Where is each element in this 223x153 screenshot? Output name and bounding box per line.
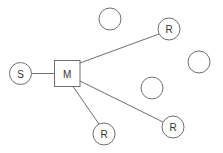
node-label: R bbox=[100, 129, 107, 140]
node-circle-shape bbox=[99, 8, 121, 30]
node-label: R bbox=[165, 24, 172, 35]
empty-node-e3 bbox=[141, 77, 163, 99]
node-label: R bbox=[169, 122, 176, 133]
node-r1: R bbox=[158, 18, 180, 40]
edge-m-r3 bbox=[73, 87, 99, 125]
node-label: S bbox=[17, 69, 24, 80]
network-diagram: SMRRR bbox=[0, 0, 223, 153]
node-r3: R bbox=[93, 123, 115, 145]
edges-layer bbox=[32, 34, 164, 124]
nodes-layer: SMRRR bbox=[10, 8, 211, 145]
node-m: M bbox=[55, 61, 81, 87]
node-circle-shape bbox=[141, 77, 163, 99]
edge-m-r1 bbox=[80, 34, 159, 63]
empty-node-e2 bbox=[188, 51, 210, 73]
node-s: S bbox=[10, 63, 32, 85]
empty-node-e1 bbox=[99, 8, 121, 30]
node-circle-shape bbox=[188, 51, 210, 73]
node-r2: R bbox=[162, 116, 184, 138]
node-label: M bbox=[63, 69, 71, 80]
